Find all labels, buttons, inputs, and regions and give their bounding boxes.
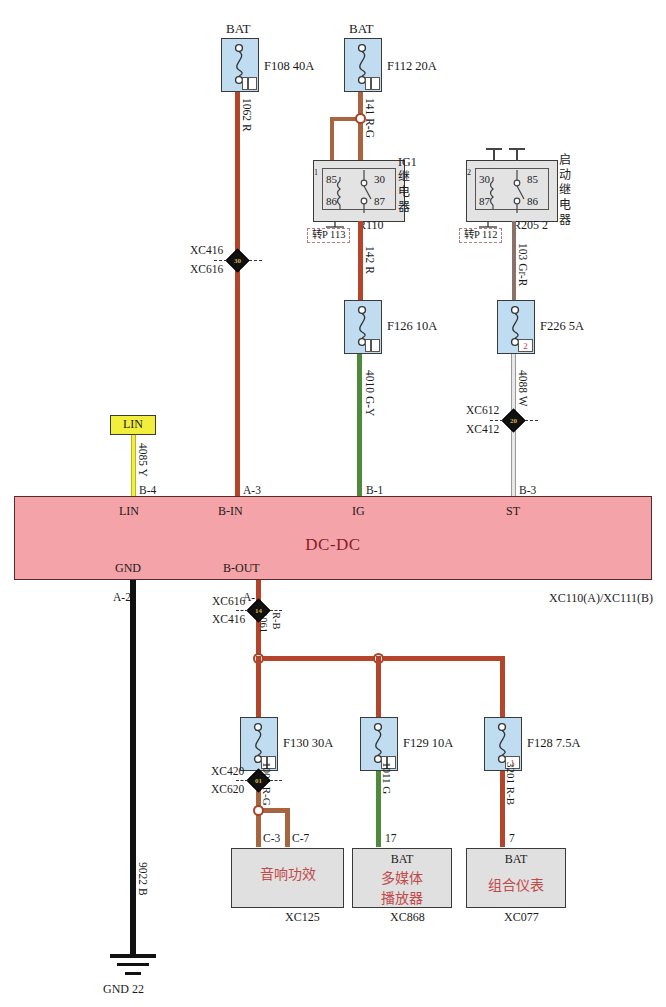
wire-9022-segment	[130, 580, 136, 954]
wire-1062-label: 1062 R	[241, 98, 253, 132]
dcdc-fn-bout: B-OUT	[223, 562, 260, 574]
relay-starter-feed-left-cap	[486, 148, 502, 150]
bat-label-left: BAT	[226, 22, 251, 35]
relay-ig1-pin-bl: 86	[326, 196, 337, 207]
connector-xc420-dash-left	[236, 780, 248, 781]
xc125-connector-label: XC125	[285, 911, 320, 923]
bat-label-right: BAT	[349, 22, 374, 35]
wire-142-segment	[358, 221, 363, 300]
relay-starter-pin-br: 86	[527, 196, 538, 207]
wire-3201-label: 3201 R-B	[505, 762, 516, 805]
relay-ig1[interactable]: 85 30 86 87 1	[313, 160, 405, 222]
relay-ig1-ref-box[interactable]: 转P 113	[307, 228, 350, 243]
relay-starter-ref-box[interactable]: 转P 112	[459, 228, 502, 243]
xc077-pin-7: 7	[509, 833, 515, 845]
dcdc-fn-ig: IG	[352, 505, 365, 517]
relay-starter-feed-right	[516, 148, 518, 161]
component-instrument-cluster[interactable]: BAT 组合仪表	[466, 848, 566, 908]
ground-label: GND 22	[103, 983, 144, 995]
fuse-tab-icon	[242, 77, 257, 90]
connector-xc420-bottom-label: XC620	[211, 784, 244, 796]
fuse-f126[interactable]	[344, 300, 382, 354]
wire-103-label: 103 Gr-R	[517, 243, 529, 287]
wire-1062-segment	[235, 92, 240, 498]
wire-141-branch-v	[330, 117, 334, 160]
xc868-bat-label: BAT	[353, 852, 451, 867]
pin-lin-ref: B-4	[139, 485, 156, 497]
connector-xc616-top-label: XC616	[212, 596, 245, 608]
xc868-title-line0: 多媒体	[353, 867, 451, 887]
pin-ig-ref: B-1	[366, 485, 383, 497]
wire-141-segment	[358, 92, 363, 160]
relay-starter-feed-left	[493, 148, 495, 161]
fuse-tab-icon	[365, 339, 380, 352]
relay-starter-pin-tl: 30	[479, 174, 490, 185]
xc077-connector-label: XC077	[504, 911, 539, 923]
wire-1001-branch-v	[285, 808, 290, 847]
drop-f130	[256, 656, 261, 717]
fuse-f112-label: F112 20A	[387, 60, 437, 73]
wire-142-label: 142 R	[364, 246, 376, 274]
lin-node-box[interactable]: LIN	[110, 415, 156, 435]
wire-9022-label: 9022 B	[137, 862, 149, 896]
wire-4010-segment	[357, 354, 362, 498]
connector-xc616-num: 14	[251, 603, 266, 618]
relay-ig1-title-c3: 继	[398, 170, 417, 185]
ground-bar-3	[125, 972, 141, 975]
connector-xc612-xc412[interactable]: 20	[501, 408, 525, 432]
connector-xc416-top-label: XC416	[190, 245, 223, 257]
dcdc-module-label: DC-DC	[15, 535, 651, 555]
pin-gnd-ref: A-2	[113, 592, 131, 604]
dcdc-fn-st: ST	[506, 505, 520, 517]
connector-xc612-top-label: XC612	[466, 405, 499, 417]
xc125-title-line0: 音响功效	[232, 863, 343, 883]
dcdc-fn-lin: LIN	[119, 505, 139, 517]
connector-xc416-bottom-label: XC616	[190, 264, 223, 276]
relay-starter-title-c0: 启	[559, 153, 571, 168]
wire-4010-label: 4010 G-Y	[364, 370, 376, 416]
fuse-f112[interactable]	[344, 38, 382, 92]
relay-ig1-pin-br: 87	[374, 196, 385, 207]
relay-ig1-title-c2: 1	[411, 155, 417, 169]
pin-st-ref: B-3	[519, 485, 536, 497]
wire-1011-label: 1011 G	[381, 762, 392, 794]
connector-xc612-dash-right	[525, 420, 538, 421]
wire-103-segment	[512, 221, 516, 300]
connector-xc612-bottom-label: XC412	[466, 424, 499, 436]
fuse-tab-icon	[365, 77, 380, 90]
fuse-f108[interactable]	[221, 38, 259, 92]
fuse-f226[interactable]: 2	[497, 300, 535, 354]
relay-starter-pin-bl: 87	[479, 196, 490, 207]
relay-ig1-pin-tl: 85	[326, 174, 337, 185]
drop-f128	[500, 656, 505, 717]
xc077-bat-label: BAT	[467, 852, 565, 867]
dcdc-connector-label: XC110(A)/XC111(B)	[549, 592, 653, 604]
component-multimedia-player[interactable]: BAT 多媒体 播放器	[352, 848, 452, 908]
connector-xc416-dash-right	[249, 260, 262, 261]
ground-bar-2	[117, 963, 149, 966]
fuse-f126-label: F126 10A	[387, 320, 437, 333]
xc868-pin-17: 17	[385, 833, 397, 845]
relay-ig1-title-c4: 电	[398, 185, 417, 200]
component-audio-amplifier[interactable]: 音响功效	[231, 848, 344, 908]
drop-f129	[376, 656, 381, 717]
dcdc-fn-gnd: GND	[115, 562, 141, 574]
relay-ig1-title: IG1 继 电 器	[398, 155, 417, 215]
relay-starter-pin-tr: 85	[527, 174, 538, 185]
pin-bin-ref: A-3	[243, 485, 261, 497]
dcdc-module[interactable]: DC-DC LIN B-IN IG ST GND B-OUT	[14, 496, 652, 580]
wire-4088-label: 4088 W	[517, 370, 529, 407]
connector-xc612-num: 20	[506, 413, 521, 428]
wire-141-label: 141 R-G	[364, 98, 376, 138]
connector-xc612-dash-left	[490, 420, 503, 421]
connector-xc416-xc616[interactable]: 30	[225, 248, 249, 272]
connector-xc420-top-label: XC420	[211, 766, 244, 778]
connector-xc616-dash-right	[270, 610, 282, 611]
connector-xc616-bottom-label: XC416	[212, 614, 245, 626]
relay-starter-title-c1: 动	[559, 168, 571, 183]
xc125-pin-c7: C-7	[292, 833, 309, 845]
connector-xc420-num: 01	[251, 773, 266, 788]
ground-bar-1	[110, 954, 156, 958]
fuse-f128-label: F128 7.5A	[527, 737, 580, 750]
relay-starter[interactable]: 30 85 87 86 2	[466, 160, 558, 222]
